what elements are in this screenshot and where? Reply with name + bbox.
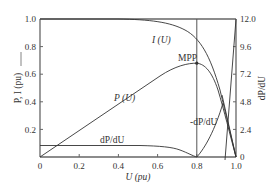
y-right-tick-label: 4.8 <box>240 97 252 107</box>
x-tick-label: 0.2 <box>74 161 85 171</box>
y-right-tick-label: 9.6 <box>240 42 252 52</box>
mpp-label: MPP <box>178 53 197 63</box>
x-tick-label: 0.8 <box>191 161 203 171</box>
y-axis-title: P, I (pu) <box>13 73 24 103</box>
y-right-tick-label: 7.2 <box>240 69 251 79</box>
i-curve <box>40 19 236 157</box>
neg-dpdu-rise-curve <box>225 19 236 160</box>
plot-frame <box>40 19 236 157</box>
x-axis-title: U (pu) <box>125 172 150 183</box>
y-tick-label: 0.2 <box>25 125 36 135</box>
neg-dpdu-label: -dP/dU <box>190 117 218 127</box>
y-tick-label: 1.0 <box>25 14 37 24</box>
p-curve-label: P (U) <box>113 93 135 104</box>
y-tick-label: 0.8 <box>25 42 37 52</box>
neg-dpdu-curve <box>197 103 223 157</box>
y-right-tick-label: 2.4 <box>240 125 252 135</box>
right-tick-labels: 0 2.4 4.8 7.2 9.6 12.0 <box>240 14 256 162</box>
y-tick-label: 0.6 <box>25 69 37 79</box>
y-right-tick-label: 12.0 <box>240 14 256 24</box>
pv-characteristic-chart: 0.2 0.4 0.6 0.8 1.0 0 2.4 4.8 7.2 9.6 12… <box>0 0 276 190</box>
i-curve-label: I (U) <box>151 35 171 46</box>
x-tick-labels: 0 0.2 0.4 0.6 0.8 1.0 <box>38 161 242 171</box>
y-tick-label: 0.4 <box>25 97 37 107</box>
y-right-axis-title: dP/dU <box>257 76 267 100</box>
dpdu-label: dP/dU <box>100 135 124 145</box>
left-tick-labels: 0.2 0.4 0.6 0.8 1.0 <box>25 14 37 134</box>
x-tick-label: 0 <box>38 161 43 171</box>
x-tick-label: 1.0 <box>230 161 242 171</box>
x-tick-label: 0.4 <box>113 161 125 171</box>
x-tick-label: 0.6 <box>152 161 164 171</box>
